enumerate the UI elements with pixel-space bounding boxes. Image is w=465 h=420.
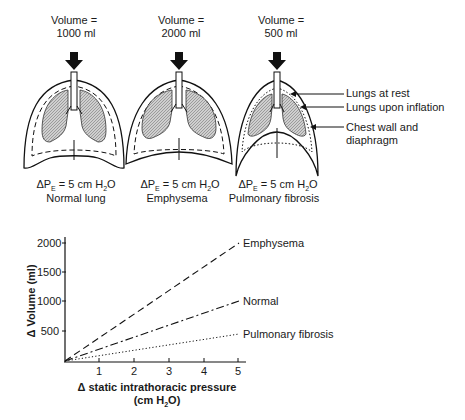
panel1-volume-label: Volume = [51,14,97,27]
panel2-volume-value: 2000 ml [161,27,200,40]
down-arrow-icon [65,52,83,70]
trachea [71,72,77,110]
series-label-emphysema: Emphysema [243,237,304,250]
x-tick-4: 4 [201,365,207,378]
x-tick-3: 3 [166,365,172,378]
x-tick-1: 1 [96,365,102,378]
series-label-normal: Normal [243,295,278,308]
normal-line [65,301,239,361]
panel3-volume-label: Volume = [258,14,304,27]
emphysema-lung-diagram [126,52,232,164]
legend-lungs-at-rest: Lungs at rest [346,87,410,100]
x-tick-2: 2 [131,365,137,378]
y-tick-1500: 1500 [37,266,59,279]
y-axis-label: Δ Volume (ml) [25,264,38,337]
y-tick-1000: 1000 [37,295,59,308]
y-tick-500: 500 [37,325,59,338]
panel1-volume-value: 1000 ml [56,27,95,40]
x-axis-label-line2: (cm H2O) [134,394,181,411]
fibrosis-lung-diagram [236,52,344,176]
trachea [176,72,182,108]
legend-chest-wall-line2: diaphragm [346,134,398,147]
down-arrow-icon [170,52,188,70]
series-label-fibrosis: Pulmonary fibrosis [243,328,333,341]
x-tick-5: 5 [235,365,241,378]
trachea [274,72,280,108]
panel3-condition: Pulmonary fibrosis [229,192,319,205]
normal-lung-diagram [24,52,124,168]
compliance-chart [62,237,246,362]
panel2-condition: Emphysema [146,192,207,205]
legend-chest-wall-line1: Chest wall and [346,121,418,134]
panel1-condition: Normal lung [46,192,105,205]
y-tick-2000: 2000 [37,237,59,250]
lung-diagrams [0,0,465,420]
down-arrow-icon [268,52,286,70]
x-axis-label-line1: Δ static intrathoracic pressure [78,381,237,394]
legend-lungs-upon-inflation: Lungs upon inflation [346,101,444,114]
panel3-volume-value: 500 ml [264,27,297,40]
fibrosis-line [65,334,239,361]
emphysema-line [65,243,239,361]
panel2-volume-label: Volume = [158,14,204,27]
